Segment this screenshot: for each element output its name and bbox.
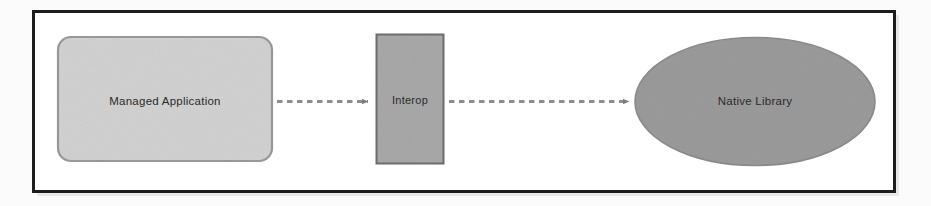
diagram-svg: Managed Application Interop Native Libra… — [0, 0, 931, 206]
node-managed-application[interactable]: Managed Application — [58, 37, 272, 161]
native-library-label: Native Library — [718, 95, 792, 107]
managed-application-label: Managed Application — [109, 95, 221, 107]
node-interop[interactable]: Interop — [377, 35, 444, 164]
diagram-canvas: Managed Application Interop Native Libra… — [0, 0, 931, 206]
node-native-library[interactable]: Native Library — [635, 38, 875, 166]
interop-label: Interop — [392, 94, 428, 106]
